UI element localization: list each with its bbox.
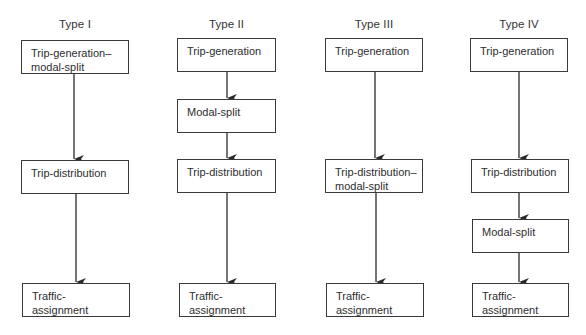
type-ii-traffic-assignment-box: Traffic- assignment	[179, 283, 276, 317]
type-i-trip-generation-modal-split-box: Trip-generation– modal-split	[21, 40, 129, 74]
type-ii-trip-generation-box: Trip-generation	[177, 38, 276, 72]
type-i-traffic-assignment-box: Traffic- assignment	[22, 283, 130, 317]
type-ii-title: Type II	[177, 18, 276, 30]
type-iii-trip-distribution-modal-split-box: Trip-distribution– modal-split	[325, 159, 423, 193]
type-iii-title: Type III	[325, 18, 423, 30]
type-ii-trip-distribution-box: Trip-distribution	[177, 159, 276, 193]
type-iv-traffic-assignment-box: Traffic- assignment	[472, 283, 569, 317]
type-iii-trip-generation-box: Trip-generation	[325, 38, 423, 72]
type-iv-trip-generation-box: Trip-generation	[470, 38, 568, 72]
type-ii-modal-split-box: Modal-split	[177, 99, 276, 133]
type-iv-modal-split-box: Modal-split	[472, 219, 569, 253]
type-iii-traffic-assignment-box: Traffic- assignment	[326, 283, 424, 317]
type-iv-trip-distribution-box: Trip-distribution	[471, 159, 569, 193]
type-iv-title: Type IV	[470, 18, 568, 30]
type-i-trip-distribution-box: Trip-distribution	[21, 160, 129, 194]
type-i-title: Type I	[21, 18, 129, 30]
